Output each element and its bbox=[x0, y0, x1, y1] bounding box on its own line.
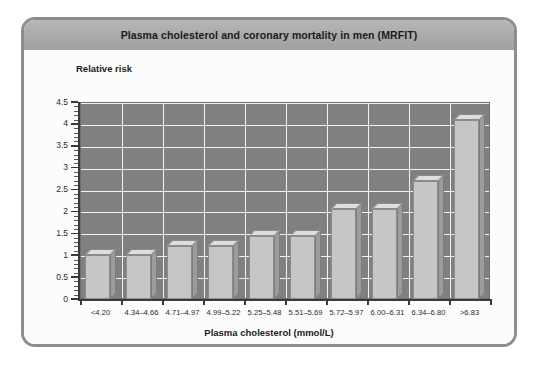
x-axis-tick bbox=[367, 299, 369, 305]
screenshot-root: Plasma cholesterol and coronary mortalit… bbox=[0, 0, 544, 371]
bar-front-face bbox=[249, 236, 274, 299]
x-axis-tick bbox=[203, 299, 205, 305]
bar bbox=[208, 240, 239, 299]
bar-front-face bbox=[413, 181, 438, 299]
bar-top-face bbox=[413, 175, 444, 181]
chart-title: Plasma cholesterol and coronary mortalit… bbox=[121, 29, 418, 41]
gridline-vertical bbox=[163, 103, 164, 298]
y-axis-tick-label: 4 bbox=[24, 118, 68, 128]
y-axis-tick bbox=[71, 211, 78, 213]
chart-body: Relative risk Plasma cholesterol (mmol/L… bbox=[24, 50, 514, 344]
bar-front-face bbox=[372, 209, 397, 299]
x-axis-tick-label: 4.71–4.97 bbox=[166, 308, 200, 317]
y-axis-minor-tick bbox=[74, 281, 78, 282]
y-axis-minor-tick bbox=[74, 163, 78, 164]
x-axis-tick bbox=[121, 299, 123, 305]
bar bbox=[167, 240, 198, 299]
bar-side-face bbox=[233, 240, 239, 299]
y-axis-minor-tick bbox=[74, 115, 78, 116]
x-axis-tick bbox=[449, 299, 451, 305]
bar-side-face bbox=[356, 203, 362, 299]
y-axis-minor-tick bbox=[74, 207, 78, 208]
y-axis-line bbox=[78, 102, 80, 299]
x-axis-tick-label: 4.99–5.22 bbox=[207, 308, 241, 317]
bar bbox=[454, 114, 485, 299]
y-axis-tick-label: 4.5 bbox=[24, 97, 68, 107]
y-axis-tick bbox=[71, 189, 78, 191]
y-axis-title: Relative risk bbox=[76, 63, 132, 74]
bar-side-face bbox=[397, 203, 403, 299]
bar-top-face bbox=[454, 114, 485, 120]
x-axis-tick-label: 5.25–5.48 bbox=[248, 308, 282, 317]
y-axis-minor-tick bbox=[74, 111, 78, 112]
x-axis-tick-label: 5.72–5.97 bbox=[330, 308, 364, 317]
y-axis-minor-tick bbox=[74, 229, 78, 230]
y-axis-minor-tick bbox=[74, 295, 78, 296]
chart-panel: Plasma cholesterol and coronary mortalit… bbox=[21, 17, 517, 347]
x-axis-tick-label: 6.00–6.31 bbox=[371, 308, 405, 317]
bar-side-face bbox=[315, 230, 321, 299]
bar bbox=[331, 203, 362, 299]
x-axis-tick bbox=[244, 299, 246, 305]
y-axis-minor-tick bbox=[74, 137, 78, 138]
gridline-vertical bbox=[409, 103, 410, 298]
gridline-vertical bbox=[122, 103, 123, 298]
y-axis-minor-tick bbox=[74, 216, 78, 217]
bar-front-face bbox=[167, 246, 192, 299]
y-axis-tick-label: 2.5 bbox=[24, 184, 68, 194]
bar-front-face bbox=[126, 255, 151, 299]
y-axis-minor-tick bbox=[74, 172, 78, 173]
y-axis-minor-tick bbox=[74, 203, 78, 204]
y-axis-tick-label: 1.5 bbox=[24, 228, 68, 238]
y-axis-minor-tick bbox=[74, 286, 78, 287]
gridline-vertical bbox=[204, 103, 205, 298]
y-axis-tick bbox=[71, 276, 78, 278]
y-axis-minor-tick bbox=[74, 155, 78, 156]
bar bbox=[85, 249, 116, 299]
bar-side-face bbox=[110, 249, 116, 299]
bar bbox=[126, 249, 157, 299]
gridline-vertical bbox=[368, 103, 369, 298]
bar-top-face bbox=[249, 230, 280, 236]
y-axis-minor-tick bbox=[74, 141, 78, 142]
y-axis-minor-tick bbox=[74, 246, 78, 247]
bar-side-face bbox=[192, 240, 198, 299]
x-axis-line bbox=[78, 299, 490, 301]
gridline-vertical bbox=[327, 103, 328, 298]
y-axis-minor-tick bbox=[74, 120, 78, 121]
bar-top-face bbox=[290, 230, 321, 236]
y-axis-tick-label: 3.5 bbox=[24, 140, 68, 150]
gridline-horizontal bbox=[81, 103, 489, 104]
y-axis-minor-tick bbox=[74, 181, 78, 182]
gridline-horizontal bbox=[81, 147, 489, 148]
y-axis-minor-tick bbox=[74, 264, 78, 265]
bar bbox=[249, 230, 280, 299]
y-axis-tick-label: 3 bbox=[24, 162, 68, 172]
y-axis-tick bbox=[71, 254, 78, 256]
y-axis-minor-tick bbox=[74, 260, 78, 261]
bar-front-face bbox=[331, 209, 356, 299]
x-axis-tick bbox=[162, 299, 164, 305]
y-axis-minor-tick bbox=[74, 225, 78, 226]
bar-front-face bbox=[454, 120, 479, 299]
y-axis-minor-tick bbox=[74, 128, 78, 129]
gridline-horizontal bbox=[81, 169, 489, 170]
y-axis-tick-label: 0 bbox=[24, 294, 68, 304]
bar-side-face bbox=[151, 249, 157, 299]
gridline-horizontal bbox=[81, 125, 489, 126]
y-axis-minor-tick bbox=[74, 194, 78, 195]
x-axis-tick-label: <4.20 bbox=[91, 308, 110, 317]
bar bbox=[372, 203, 403, 299]
bar-side-face bbox=[479, 114, 485, 299]
y-axis-tick-label: 0.5 bbox=[24, 272, 68, 282]
bar-front-face bbox=[85, 255, 110, 299]
x-axis-tick-label: 5.51–5.69 bbox=[289, 308, 323, 317]
y-axis-minor-tick bbox=[74, 106, 78, 107]
x-axis-tick bbox=[408, 299, 410, 305]
y-axis-minor-tick bbox=[74, 133, 78, 134]
gridline-vertical bbox=[286, 103, 287, 298]
bar-front-face bbox=[208, 246, 233, 299]
y-axis-tick-label: 2 bbox=[24, 206, 68, 216]
chart-title-bar: Plasma cholesterol and coronary mortalit… bbox=[24, 20, 514, 50]
y-axis-tick bbox=[71, 167, 78, 169]
